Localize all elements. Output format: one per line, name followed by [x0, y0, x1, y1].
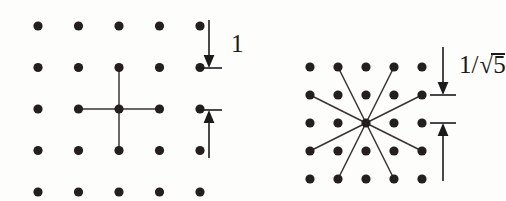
lattice-dot	[114, 63, 123, 72]
lattice-dot	[389, 90, 398, 99]
lattice-dot	[305, 90, 314, 99]
lattice-dot	[417, 118, 426, 127]
lattice-dot	[33, 21, 42, 30]
lattice-dot	[74, 21, 83, 30]
lattice-dot	[389, 62, 398, 71]
radical-sign: √	[479, 51, 493, 78]
lattice-dot	[155, 21, 164, 30]
lattice-dot	[305, 146, 314, 155]
lattice-dot	[361, 118, 370, 127]
lattice-dot	[333, 118, 342, 127]
lattice-dot	[33, 187, 42, 196]
lattice-dot	[195, 104, 204, 113]
lattice-dot	[333, 62, 342, 71]
fraction-numerator: 1	[459, 51, 472, 78]
radical-overbar	[491, 53, 505, 55]
inverse-sqrt-five-label: 1/√5	[459, 52, 506, 77]
unit-distance-label: 1	[231, 31, 244, 56]
lattice-dot-grid-right	[305, 62, 426, 183]
lattice-dot	[74, 187, 83, 196]
radicand: 5	[493, 51, 506, 78]
lattice-dot	[33, 63, 42, 72]
upper-arrow-head	[204, 55, 215, 68]
lattice-dot	[155, 146, 164, 155]
lattice-dot	[155, 187, 164, 196]
upper-arrow-head	[438, 82, 449, 95]
lattice-dot	[389, 118, 398, 127]
lattice-dot	[361, 174, 370, 183]
lattice-dot	[155, 104, 164, 113]
lattice-dot	[333, 90, 342, 99]
lattice-dot	[114, 21, 123, 30]
lattice-dot	[74, 63, 83, 72]
lattice-dot	[114, 104, 123, 113]
lattice-dot	[305, 118, 314, 127]
lattice-dot	[74, 104, 83, 113]
lattice-dot	[74, 146, 83, 155]
lattice-dot	[333, 174, 342, 183]
lattice-dot	[389, 146, 398, 155]
lattice-dot	[114, 146, 123, 155]
lattice-dot	[305, 62, 314, 71]
lattice-dot	[389, 174, 398, 183]
lattice-dot	[195, 146, 204, 155]
lattice-dot	[155, 63, 164, 72]
scaled-lattice-panel	[305, 47, 456, 184]
lattice-dot	[305, 174, 314, 183]
lattice-dot	[333, 146, 342, 155]
lattice-dot	[417, 174, 426, 183]
lattice-dot	[417, 62, 426, 71]
lattice-dot	[195, 187, 204, 196]
inverse-sqrt-five-distance-annotation	[430, 47, 456, 181]
fraction-slash: /	[472, 51, 479, 78]
lattice-dot	[114, 187, 123, 196]
unit-distance-annotation	[196, 20, 222, 158]
unit-spacing-lattice-panel	[33, 20, 222, 197]
radical-group: √5	[478, 52, 505, 77]
lattice-dot	[195, 21, 204, 30]
lattice-dot	[417, 146, 426, 155]
lattice-dot	[361, 90, 370, 99]
lattice-dot	[417, 90, 426, 99]
lattice-dot	[33, 104, 42, 113]
lattice-dot	[361, 146, 370, 155]
lattice-dot	[33, 146, 42, 155]
lattice-dot-grid-left	[33, 21, 204, 196]
lattice-dot	[361, 62, 370, 71]
